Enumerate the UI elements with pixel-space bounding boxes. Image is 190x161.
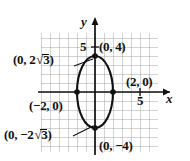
label-left-covertex: (−2, 0) [29,99,62,112]
point-bottom-vertex [92,125,98,131]
radical-bar-upper [42,54,49,55]
y-axis-label: y [81,15,87,28]
x-tick-label-5: 5 [137,94,144,107]
label-bottom-vertex: (0, −4) [99,139,132,152]
label-lower-focus: (0, −2√3) [4,128,52,141]
point-right-covertex [110,89,116,95]
y-tick-label-5: 5 [80,40,87,53]
radical-bar-lower [40,129,47,130]
point-top-vertex [92,53,98,59]
label-upper-focus-prefix: (0, 2 [13,52,35,67]
point-left-covertex [74,89,80,95]
label-right-covertex: (2, 0) [126,75,152,88]
radical-sign-lower: √3 [33,128,47,141]
label-lower-focus-suffix: ) [47,127,51,142]
label-upper-focus: (0, 2√3) [13,53,53,66]
radical-sign-upper: √3 [35,53,49,66]
label-upper-focus-suffix: ) [49,52,53,67]
x-axis-label: x [166,92,173,105]
label-top-vertex: (0, 4) [99,40,125,53]
label-lower-focus-prefix: (0, −2 [4,127,33,142]
